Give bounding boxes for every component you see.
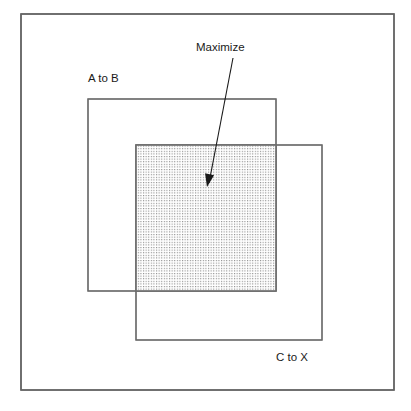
overlap-diagram: A to B C to X Maximize (0, 0, 411, 411)
region-label-a-to-b: A to B (88, 72, 119, 84)
overlap-shaded-rect (136, 145, 276, 291)
diagram-root: A to B C to X Maximize (0, 0, 411, 411)
region-label-c-to-x: C to X (276, 351, 308, 363)
overlap-label-maximize: Maximize (196, 41, 245, 53)
